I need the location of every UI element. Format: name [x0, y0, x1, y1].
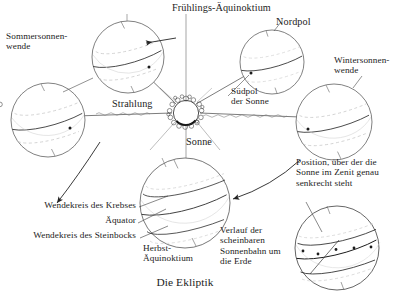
- label-north-pole: Nordpol: [276, 16, 311, 28]
- figure-title: Die Ekliptik: [130, 276, 240, 289]
- label-apparent-path: Verlauf der scheinbaren Sonnenbahn um di…: [220, 225, 281, 267]
- label-summer-solstice: Sommersonnen- wende: [6, 31, 68, 52]
- label-south-pole-sun: Südpol der Sonne: [231, 86, 269, 107]
- label-spring-equinox: Frühlings-Äquinoktium: [172, 2, 271, 14]
- globe-north-pole: [240, 30, 304, 94]
- label-winter-solstice: Wintersonnen- wende: [334, 55, 390, 76]
- globe-summer-solstice: [11, 83, 85, 157]
- globe-winter-solstice: [296, 84, 372, 160]
- globe-zenith-detail: [295, 206, 380, 290]
- globe-spring-equinox: [92, 21, 164, 93]
- diagram-canvas: Frühlings-Äquinoktium Nordpol Sommersonn…: [0, 0, 399, 295]
- label-equator: Äquator: [0, 215, 136, 225]
- label-autumn-equinox: Herbst- Äquinoktium: [143, 243, 193, 264]
- label-zenith-position: Position, über der die Sonne im Zenit ge…: [296, 157, 379, 188]
- orbit-arrow-right: [233, 160, 300, 199]
- globe-autumn-equinox: [140, 158, 230, 248]
- label-tropic-cancer: Wendekreis des Krebses: [0, 200, 136, 210]
- label-sun: Sonne: [186, 136, 212, 148]
- label-tropic-capricorn: Wendekreis des Steinbocks: [0, 230, 136, 240]
- label-radiation: Strahlung: [112, 98, 153, 110]
